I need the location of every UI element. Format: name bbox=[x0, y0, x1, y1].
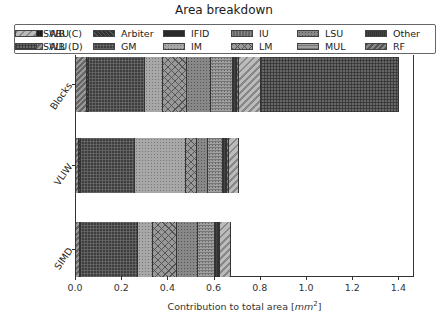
bar-segment bbox=[81, 138, 135, 193]
legend-swatch bbox=[297, 30, 319, 37]
legend-item: IM bbox=[163, 40, 202, 52]
legend-item: LM bbox=[231, 40, 273, 52]
y-tick-label: VLIW bbox=[52, 161, 75, 187]
legend-item: GM bbox=[93, 40, 137, 52]
x-tick bbox=[398, 276, 399, 280]
x-tick-label: 1.0 bbox=[291, 282, 321, 293]
bar-segment bbox=[177, 222, 198, 277]
legend-item: IU bbox=[231, 27, 269, 39]
bar-segment bbox=[229, 138, 239, 193]
bar-segment bbox=[187, 57, 211, 112]
bar-segment bbox=[163, 57, 187, 112]
legend-label: SWB (D) bbox=[43, 41, 83, 52]
legend-item: RF bbox=[365, 40, 405, 52]
legend-swatch bbox=[163, 30, 185, 37]
plot-area bbox=[75, 55, 414, 277]
legend-swatch bbox=[231, 43, 253, 50]
bar-vliw bbox=[76, 138, 239, 193]
bar-segment bbox=[239, 57, 261, 112]
legend-item: LSU bbox=[297, 27, 343, 39]
legend-label: Other bbox=[393, 28, 420, 39]
legend-label: GM bbox=[121, 41, 137, 52]
bar-blocks bbox=[76, 57, 399, 112]
x-tick-label: 0.8 bbox=[245, 282, 275, 293]
bar-segment bbox=[211, 57, 233, 112]
x-tick-label: 0.4 bbox=[152, 282, 182, 293]
x-tick bbox=[121, 276, 122, 280]
legend-swatch bbox=[15, 30, 37, 37]
x-tick bbox=[306, 276, 307, 280]
legend-item: SWB (D) bbox=[15, 40, 83, 52]
legend-label: LSU bbox=[325, 28, 343, 39]
legend-label: LM bbox=[259, 41, 273, 52]
legend-label: RF bbox=[393, 41, 405, 52]
x-tick-label: 1.2 bbox=[337, 282, 367, 293]
bar-segment bbox=[138, 222, 153, 277]
bar-simd bbox=[76, 222, 231, 277]
chart-title: Area breakdown bbox=[0, 3, 448, 17]
legend-label: SWB (C) bbox=[43, 28, 82, 39]
x-tick-label: 0.2 bbox=[106, 282, 136, 293]
legend-label: IFID bbox=[191, 28, 209, 39]
x-tick bbox=[167, 276, 168, 280]
legend-swatch bbox=[93, 30, 115, 37]
x-tick bbox=[260, 276, 261, 280]
legend-label: MUL bbox=[325, 41, 345, 52]
x-tick bbox=[214, 276, 215, 280]
bar-segment bbox=[186, 138, 197, 193]
legend-label: Arbiter bbox=[121, 28, 154, 39]
x-tick bbox=[352, 276, 353, 280]
legend-item: IFID bbox=[163, 27, 209, 39]
bar-segment bbox=[220, 222, 231, 277]
legend-item: Other bbox=[365, 27, 420, 39]
y-tick-label: SIMD bbox=[52, 245, 75, 271]
bar-segment bbox=[89, 57, 145, 112]
legend-swatch bbox=[365, 30, 387, 37]
legend-swatch bbox=[297, 43, 319, 50]
legend-item: MUL bbox=[297, 40, 345, 52]
bar-segment bbox=[76, 57, 87, 112]
bar-segment bbox=[197, 138, 208, 193]
legend: ABUALUArbiterGMIFIDIMIULMLSUMULOtherRFSW… bbox=[14, 24, 436, 54]
x-tick-label: 0.6 bbox=[199, 282, 229, 293]
legend-label: IM bbox=[191, 41, 202, 52]
legend-item: SWB (C) bbox=[15, 27, 82, 39]
legend-item: Arbiter bbox=[93, 27, 154, 39]
legend-swatch bbox=[231, 30, 253, 37]
legend-swatch bbox=[365, 43, 387, 50]
bar-segment bbox=[261, 57, 399, 112]
bar-segment bbox=[153, 222, 177, 277]
bar-segment bbox=[81, 222, 138, 277]
bar-segment bbox=[145, 57, 163, 112]
x-tick bbox=[75, 276, 76, 280]
legend-swatch bbox=[93, 43, 115, 50]
legend-label: IU bbox=[259, 28, 269, 39]
bar-segment bbox=[135, 138, 186, 193]
x-tick-label: 1.4 bbox=[383, 282, 413, 293]
legend-swatch bbox=[15, 43, 37, 50]
bar-segment bbox=[198, 222, 215, 277]
bar-segment bbox=[208, 138, 223, 193]
x-tick-label: 0.0 bbox=[60, 282, 90, 293]
legend-swatch bbox=[163, 43, 185, 50]
x-axis-label: Contribution to total area [mm2] bbox=[75, 300, 414, 312]
y-tick-label: Blocks bbox=[48, 80, 75, 111]
